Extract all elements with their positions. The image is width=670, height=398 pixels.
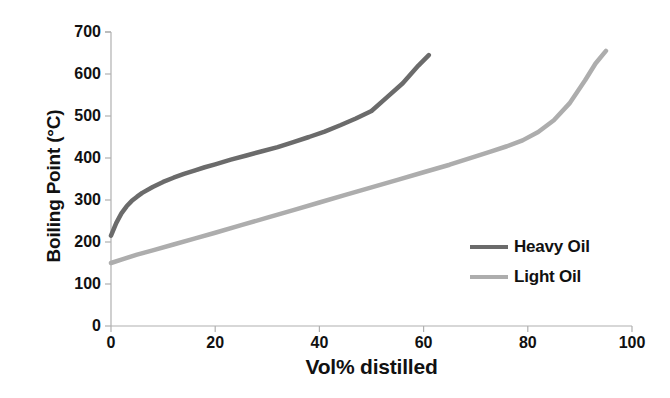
chart-container: Boiling Point (°C) Vol% distilled 010020… <box>0 0 670 398</box>
legend-item-light-oil: Light Oil <box>470 262 590 292</box>
plot-area <box>0 0 670 398</box>
legend: Heavy Oil Light Oil <box>470 232 590 292</box>
legend-label-heavy-oil: Heavy Oil <box>514 237 590 257</box>
legend-swatch-heavy-oil <box>470 245 508 249</box>
series-line-heavy-oil <box>111 55 429 236</box>
legend-item-heavy-oil: Heavy Oil <box>470 232 590 262</box>
legend-label-light-oil: Light Oil <box>514 267 581 287</box>
legend-swatch-light-oil <box>470 275 508 279</box>
